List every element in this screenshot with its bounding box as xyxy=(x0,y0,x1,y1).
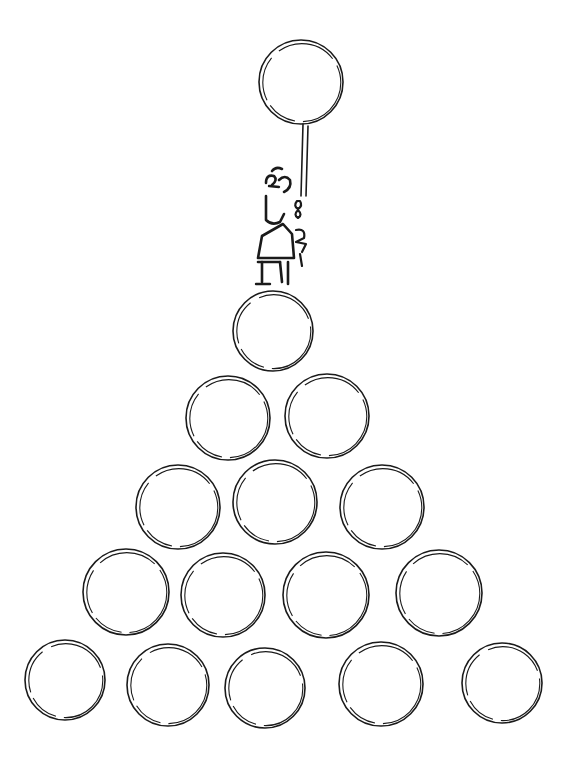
coin xyxy=(462,643,542,723)
balloon-circle xyxy=(259,40,343,124)
coin xyxy=(283,552,369,638)
coin xyxy=(186,376,270,460)
balloon xyxy=(259,40,343,124)
coin xyxy=(285,374,369,458)
coin xyxy=(340,465,424,549)
coin-pyramid xyxy=(25,291,542,728)
coin-pyramid-drawing xyxy=(0,0,576,770)
coin xyxy=(233,291,313,371)
coin xyxy=(83,549,169,635)
coin xyxy=(396,550,482,636)
illustration-canvas xyxy=(0,0,576,770)
coin xyxy=(225,648,305,728)
coin xyxy=(339,642,423,726)
balloon-string xyxy=(301,124,308,196)
coin xyxy=(233,460,317,544)
stick-figure-person xyxy=(256,168,306,284)
coin xyxy=(136,465,220,549)
coin xyxy=(25,640,105,720)
coin xyxy=(181,553,265,637)
coin xyxy=(127,644,209,726)
